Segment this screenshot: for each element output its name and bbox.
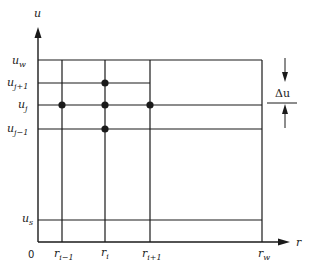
r-i-minus-1-label: ri−1 (54, 247, 74, 262)
r-axis-label: r (296, 236, 302, 249)
u-j-label: uj (18, 98, 28, 113)
node-iminus1-j (58, 101, 65, 108)
r-i-label: ri (101, 246, 109, 261)
grid-diagram: u r 0 uw uj+1 uj uj−1 us ri−1 ri ri+1 rw (0, 0, 312, 275)
u-level-labels: uw uj+1 uj uj−1 us (7, 54, 33, 227)
up-arrow-icon (282, 104, 288, 114)
u-axis: u (34, 7, 42, 242)
r-grid-lines (62, 60, 262, 242)
u-j-plus-1-label: uj+1 (7, 76, 28, 91)
u-axis-label: u (34, 7, 41, 20)
node-i-jminus1 (101, 125, 108, 132)
node-iplus1-j (146, 101, 153, 108)
node-i-j (101, 101, 108, 108)
u-w-label: uw (12, 54, 26, 69)
u-s-label: us (22, 212, 33, 227)
u-axis-arrow-icon (35, 27, 42, 38)
r-level-labels: ri−1 ri ri+1 rw (54, 246, 270, 262)
node-i-jplus1 (101, 79, 108, 86)
grid-nodes (58, 79, 153, 132)
r-i-plus-1-label: ri+1 (142, 247, 162, 262)
r-axis-arrow-icon (278, 239, 290, 246)
origin-label: 0 (28, 249, 34, 260)
u-j-minus-1-label: uj−1 (7, 122, 28, 137)
r-w-label: rw (258, 247, 270, 262)
down-arrow-icon (282, 72, 288, 82)
delta-u-label: Δu (275, 87, 290, 100)
